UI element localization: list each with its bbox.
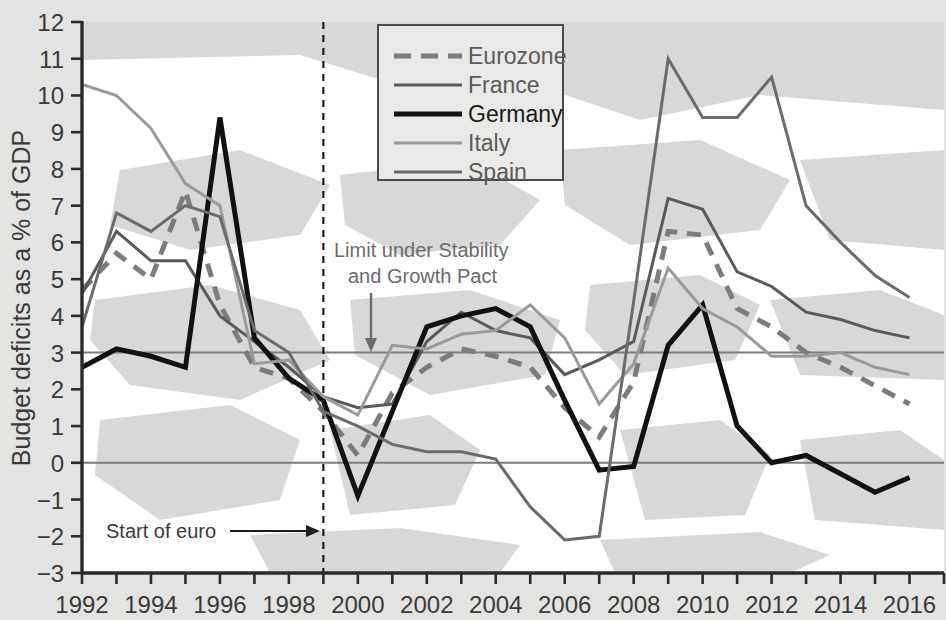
sgp-limit-line2: and Growth Pact bbox=[348, 265, 497, 287]
y-tick-label: 4 bbox=[51, 303, 64, 330]
legend-label-germany: Germany bbox=[468, 101, 563, 127]
legend-label-spain: Spain bbox=[468, 159, 527, 185]
y-tick-label: 10 bbox=[37, 82, 64, 109]
x-tick-label: 1998 bbox=[262, 591, 315, 618]
x-tick-label: 1992 bbox=[55, 591, 108, 618]
y-tick-label: 0 bbox=[51, 450, 64, 477]
y-tick-label: 1 bbox=[51, 413, 64, 440]
x-tick-label: 1996 bbox=[193, 591, 246, 618]
legend-label-eurozone: Eurozone bbox=[468, 43, 566, 69]
y-tick-label: 2 bbox=[51, 376, 64, 403]
legend-label-france: France bbox=[468, 72, 540, 98]
x-tick-label: 2012 bbox=[745, 591, 798, 618]
y-tick-label: 5 bbox=[51, 266, 64, 293]
start-of-euro-label: Start of euro bbox=[106, 520, 216, 542]
x-tick-label: 2016 bbox=[883, 591, 936, 618]
y-axis-title: Budget deficits as a % of GDP bbox=[7, 130, 35, 466]
x-tick-label: 2000 bbox=[331, 591, 384, 618]
x-tick-label: 2002 bbox=[400, 591, 453, 618]
y-tick-label: 8 bbox=[51, 156, 64, 183]
x-tick-label: 1994 bbox=[124, 591, 177, 618]
y-tick-label: −2 bbox=[37, 523, 64, 550]
y-tick-label: 9 bbox=[51, 119, 64, 146]
x-tick-label: 2014 bbox=[814, 591, 867, 618]
y-tick-label: 11 bbox=[39, 46, 64, 73]
y-tick-label: 3 bbox=[51, 340, 64, 367]
x-tick-label: 2004 bbox=[469, 591, 522, 618]
y-tick-label: 12 bbox=[37, 9, 64, 36]
y-tick-label: −3 bbox=[37, 560, 64, 587]
x-tick-label: 2008 bbox=[607, 591, 660, 618]
y-tick-label: −1 bbox=[37, 487, 64, 514]
chart-legend: EurozoneFranceGermanyItalySpain bbox=[378, 25, 566, 185]
y-tick-label: 6 bbox=[51, 229, 64, 256]
x-tick-label: 2010 bbox=[676, 591, 729, 618]
sgp-limit-line1: Limit under Stability bbox=[334, 239, 509, 261]
budget-deficit-line-chart: 1211109876543210−1−2−3 19921994199619982… bbox=[0, 0, 946, 620]
y-tick-label: 7 bbox=[51, 193, 64, 220]
legend-label-italy: Italy bbox=[468, 130, 511, 156]
chart-figure: 1211109876543210−1−2−3 19921994199619982… bbox=[0, 0, 946, 620]
x-tick-label: 2006 bbox=[538, 591, 591, 618]
